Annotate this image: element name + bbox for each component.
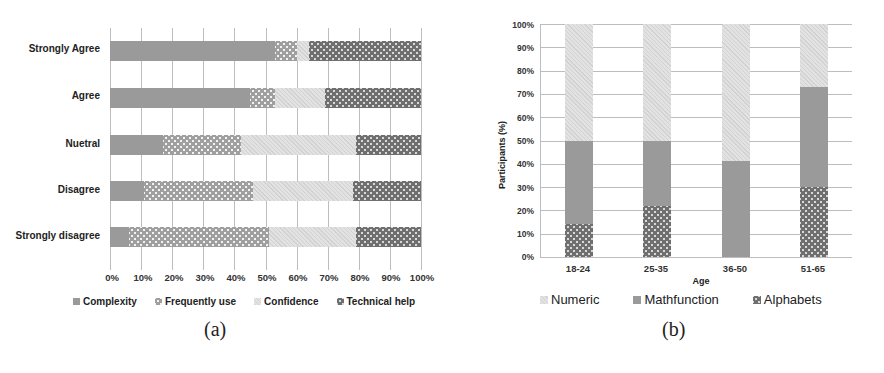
legend-label: Alphabets (764, 292, 822, 307)
bar-segment-complexity (110, 88, 250, 108)
bar-segment-technical-help (356, 227, 421, 247)
chart-a-caption: (a) (204, 318, 226, 341)
chart-b-y-tick: 10% (500, 229, 534, 239)
chart-b-y-tick: 20% (500, 206, 534, 216)
chart-a-x-tick: 60% (283, 272, 313, 283)
legend-item-technical-help: Technical help (337, 296, 416, 307)
bar-segment-frequently-use (144, 181, 253, 201)
bar-segment-confidence (275, 88, 325, 108)
bar-segment-complexity (110, 181, 144, 201)
chart-a-gridline (421, 28, 422, 270)
chart-b-x-tick: 18-24 (563, 263, 593, 274)
bar-segment-confidence (253, 181, 353, 201)
bar-segment-complexity (110, 41, 275, 61)
chart-a-x-tick: 90% (376, 272, 406, 283)
column-segment-alphabets (800, 187, 828, 257)
column-segment-numeric (565, 24, 593, 141)
chart-a-x-tick: 100% (407, 272, 437, 283)
bar-segment-frequently-use (129, 227, 269, 247)
chart-b-y-tick: 100% (500, 20, 534, 30)
bar-segment-frequently-use (250, 88, 275, 108)
chart-b-y-tick: 90% (500, 43, 534, 53)
column-segment-numeric (722, 24, 750, 161)
chart-a-category-label: Disagree (0, 184, 100, 195)
column-segment-mathfunction (722, 161, 750, 257)
column-segment-alphabets (643, 206, 671, 257)
chart-b-gridline (540, 257, 852, 258)
column-segment-mathfunction (565, 141, 593, 225)
technical-help-swatch-icon (337, 298, 344, 305)
bar-segment-frequently-use (275, 41, 297, 61)
chart-b-legend: Numeric Mathfunction Alphabets (540, 292, 822, 307)
chart-a-x-tick: 20% (159, 272, 189, 283)
alphabets-swatch-icon (753, 296, 761, 304)
chart-a-x-tick: 10% (128, 272, 158, 283)
complexity-swatch-icon (73, 298, 80, 305)
bar-segment-technical-help (309, 41, 421, 61)
legend-label: Complexity (83, 296, 137, 307)
bar-segment-confidence (241, 135, 356, 155)
chart-b-y-axis-title: Participants (%) (497, 115, 507, 195)
legend-label: Frequently use (165, 296, 236, 307)
legend-item-alphabets: Alphabets (753, 292, 822, 307)
frequently-use-swatch-icon (155, 298, 162, 305)
legend-label: Mathfunction (644, 292, 718, 307)
chart-b-y-tick: 70% (500, 89, 534, 99)
chart-b-y-tick: 80% (500, 66, 534, 76)
chart-a-category-label: Strongly disagree (0, 230, 100, 241)
chart-a-category-label: Strongly Agree (0, 43, 100, 54)
legend-label: Numeric (551, 292, 599, 307)
chart-a-x-tick: 40% (221, 272, 251, 283)
bar-segment-confidence (269, 227, 356, 247)
chart-b-y-axis-line (540, 24, 541, 257)
bar-segment-complexity (110, 135, 163, 155)
bar-segment-complexity (110, 227, 129, 247)
bar-segment-technical-help (356, 135, 421, 155)
legend-label: Technical help (347, 296, 416, 307)
bar-segment-frequently-use (163, 135, 241, 155)
column-segment-mathfunction (800, 87, 828, 187)
chart-a-legend: Complexity Frequently use Confidence Tec… (73, 296, 415, 307)
chart-a-category-label: Agree (0, 90, 100, 101)
chart-a-x-tick: 70% (314, 272, 344, 283)
bar-segment-technical-help (325, 88, 421, 108)
chart-b-y-tick: 0% (500, 252, 534, 262)
chart-b-x-tick: 25-35 (641, 263, 671, 274)
legend-item-complexity: Complexity (73, 296, 137, 307)
legend-item-confidence: Confidence (254, 296, 318, 307)
chart-b-x-tick: 51-65 (798, 263, 828, 274)
legend-item-frequently-use: Frequently use (155, 296, 236, 307)
column-segment-numeric (800, 24, 828, 87)
chart-a-x-tick: 0% (97, 272, 127, 283)
confidence-swatch-icon (254, 298, 261, 305)
chart-b-caption: (b) (662, 318, 685, 341)
chart-a-x-tick: 50% (252, 272, 282, 283)
column-segment-numeric (643, 24, 671, 141)
bar-segment-technical-help (353, 181, 421, 201)
chart-b-x-axis-title: Age (686, 276, 716, 286)
legend-label: Confidence (264, 296, 318, 307)
chart-a-x-tick: 30% (190, 272, 220, 283)
column-segment-mathfunction (643, 141, 671, 206)
numeric-swatch-icon (540, 296, 548, 304)
bar-segment-confidence (297, 41, 309, 61)
column-segment-alphabets (565, 224, 593, 257)
chart-b-x-tick: 36-50 (720, 263, 750, 274)
legend-item-numeric: Numeric (540, 292, 599, 307)
mathfunction-swatch-icon (633, 296, 641, 304)
chart-a-x-tick: 80% (345, 272, 375, 283)
legend-item-mathfunction: Mathfunction (633, 292, 718, 307)
chart-a-category-label: Nuetral (0, 138, 100, 149)
